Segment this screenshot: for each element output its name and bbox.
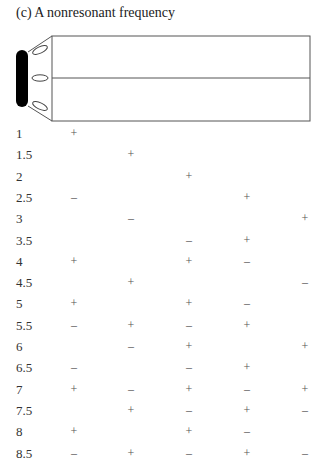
table-row: 7.5+–+–	[0, 403, 325, 423]
sign-cell: +	[240, 190, 254, 205]
table-row: 2.5–+	[0, 190, 325, 210]
sign-cell: +	[240, 318, 254, 333]
sign-cell: –	[124, 382, 138, 397]
table-row: 8++–	[0, 424, 325, 444]
row-label: 7.5	[16, 403, 32, 419]
sign-cell: –	[240, 382, 254, 397]
tube-diagram	[0, 0, 325, 130]
sign-cell: +	[67, 296, 81, 311]
sign-cell: –	[67, 318, 81, 333]
table-row: 8.5–+–+–	[0, 446, 325, 466]
sign-cell: –	[240, 424, 254, 439]
sign-cell: +	[182, 169, 196, 184]
sign-cell: +	[124, 147, 138, 162]
speaker-cone-icon	[28, 36, 52, 121]
sign-cell: –	[124, 211, 138, 226]
sign-cell: –	[67, 190, 81, 205]
sign-cell: +	[124, 318, 138, 333]
sign-cell: +	[298, 382, 312, 397]
sign-cell: +	[182, 382, 196, 397]
sign-cell: +	[67, 382, 81, 397]
row-label: 6.5	[16, 360, 32, 376]
row-label: 4.5	[16, 275, 32, 291]
sign-cell: –	[182, 360, 196, 375]
row-label: 5	[16, 296, 23, 312]
sign-cell: +	[67, 126, 81, 141]
sign-cell: +	[124, 403, 138, 418]
sign-cell: –	[182, 233, 196, 248]
sign-cell: –	[182, 318, 196, 333]
sign-cell: –	[182, 446, 196, 461]
sign-cell: +	[240, 446, 254, 461]
sign-cell: +	[240, 233, 254, 248]
table-row: 1.5+	[0, 147, 325, 167]
sign-cell: +	[182, 296, 196, 311]
table-row: 6–++	[0, 339, 325, 359]
row-label: 5.5	[16, 318, 32, 334]
table-row: 1+	[0, 126, 325, 146]
row-label: 4	[16, 254, 23, 270]
row-label: 7	[16, 382, 23, 398]
sign-cell: +	[182, 424, 196, 439]
sign-cell: –	[298, 275, 312, 290]
sign-cell: –	[67, 360, 81, 375]
speaker-icon	[16, 50, 28, 107]
sign-cell: +	[124, 275, 138, 290]
row-label: 2	[16, 169, 23, 185]
sign-cell: +	[182, 339, 196, 354]
table-row: 4.5+–	[0, 275, 325, 295]
sign-cell: +	[67, 424, 81, 439]
table-row: 7+–+–+	[0, 382, 325, 402]
sign-cell: –	[240, 254, 254, 269]
sign-cell: –	[67, 446, 81, 461]
row-label: 2.5	[16, 190, 32, 206]
sign-cell: –	[298, 446, 312, 461]
table-row: 3.5–+	[0, 233, 325, 253]
table-row: 5.5–+–+	[0, 318, 325, 338]
row-label: 8.5	[16, 446, 32, 462]
sign-cell: +	[67, 254, 81, 269]
row-label: 1	[16, 126, 23, 142]
table-row: 2+	[0, 169, 325, 189]
sign-cell: +	[298, 211, 312, 226]
sign-cell: –	[124, 339, 138, 354]
row-label: 6	[16, 339, 23, 355]
table-row: 5++–	[0, 296, 325, 316]
sign-cell: +	[298, 339, 312, 354]
sign-cell: –	[240, 296, 254, 311]
sign-cell: +	[240, 403, 254, 418]
table-row: 3–+	[0, 211, 325, 231]
row-label: 8	[16, 424, 23, 440]
row-label: 1.5	[16, 147, 32, 163]
sign-cell: –	[298, 403, 312, 418]
row-label: 3.5	[16, 233, 32, 249]
sign-cell: +	[124, 446, 138, 461]
table-row: 4++–	[0, 254, 325, 274]
sign-cell: –	[182, 403, 196, 418]
sign-cell: +	[182, 254, 196, 269]
table-row: 6.5––+	[0, 360, 325, 380]
row-label: 3	[16, 211, 23, 227]
sign-cell: +	[240, 360, 254, 375]
